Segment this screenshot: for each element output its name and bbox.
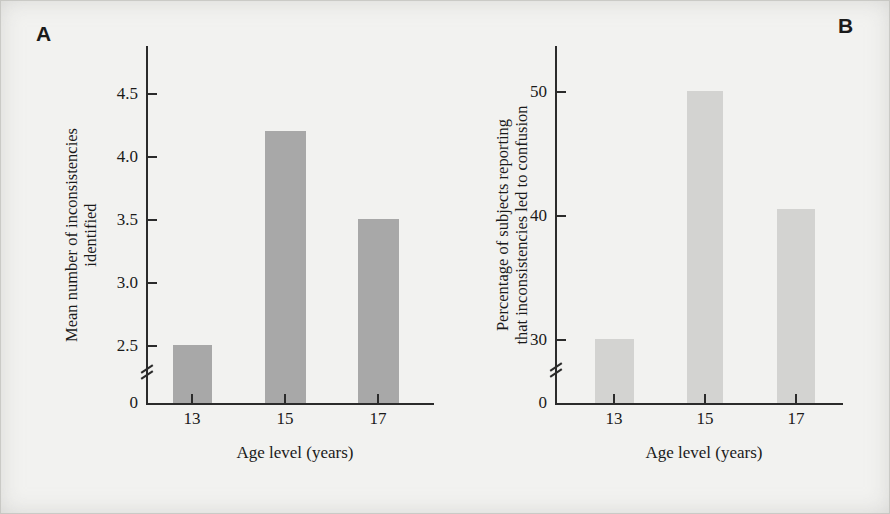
x-tick-label-a-17: 17 bbox=[348, 410, 408, 427]
x-tick-label-b-15: 15 bbox=[675, 410, 735, 427]
bar-a-17 bbox=[358, 219, 399, 403]
y-tick-label-a-4.0: 4.0 bbox=[76, 148, 138, 165]
x-tick-a-13 bbox=[191, 394, 193, 403]
y-axis-label-b-line1: Percentage of subjects reporting bbox=[493, 119, 512, 331]
y-tick-a-3 bbox=[148, 282, 157, 284]
y-axis-line-b bbox=[555, 46, 557, 405]
y-axis-line-a bbox=[146, 46, 148, 405]
panel-label-a: A bbox=[36, 22, 51, 46]
y-tick-b-1 bbox=[557, 215, 566, 217]
y-tick-b-0 bbox=[557, 91, 566, 93]
x-tick-a-15 bbox=[284, 394, 286, 403]
x-tick-label-a-13: 13 bbox=[162, 410, 222, 427]
x-tick-label-b-17: 17 bbox=[766, 410, 826, 427]
y-tick-label-b-0: 0 bbox=[493, 394, 547, 411]
x-tick-a-17 bbox=[377, 394, 379, 403]
y-tick-a-4 bbox=[148, 345, 157, 347]
bar-b-15 bbox=[687, 91, 723, 403]
y-tick-label-a-3.0: 3.0 bbox=[76, 274, 138, 291]
y-tick-b-2 bbox=[557, 339, 566, 341]
x-tick-b-17 bbox=[795, 394, 797, 403]
x-axis-line-b bbox=[555, 403, 843, 405]
y-tick-label-a-3.5: 3.5 bbox=[76, 211, 138, 228]
bar-b-17 bbox=[777, 209, 815, 403]
x-axis-label-b: Age level (years) bbox=[559, 443, 849, 463]
panel-a: A Mean number of inconsistencies identif… bbox=[0, 0, 445, 514]
x-axis-label-a: Age level (years) bbox=[150, 443, 440, 463]
y-tick-label-b-40: 40 bbox=[493, 207, 547, 224]
x-tick-label-b-13: 13 bbox=[584, 410, 644, 427]
y-tick-a-2 bbox=[148, 219, 157, 221]
y-tick-label-a-2.5: 2.5 bbox=[76, 337, 138, 354]
figure-container: A Mean number of inconsistencies identif… bbox=[0, 0, 890, 514]
panel-b: B Percentage of subjects reporting that … bbox=[445, 0, 890, 514]
y-tick-label-b-30: 30 bbox=[493, 331, 547, 348]
x-tick-b-15 bbox=[704, 394, 706, 403]
y-tick-a-1 bbox=[148, 156, 157, 158]
panel-label-b: B bbox=[838, 14, 853, 38]
bar-a-15 bbox=[265, 131, 306, 403]
x-tick-b-13 bbox=[613, 394, 615, 403]
y-tick-label-a-4.5: 4.5 bbox=[76, 85, 138, 102]
x-tick-label-a-15: 15 bbox=[255, 410, 315, 427]
x-axis-line-a bbox=[146, 403, 434, 405]
y-tick-label-a-0: 0 bbox=[76, 394, 138, 411]
y-tick-a-0 bbox=[148, 93, 157, 95]
y-tick-label-b-50: 50 bbox=[493, 83, 547, 100]
